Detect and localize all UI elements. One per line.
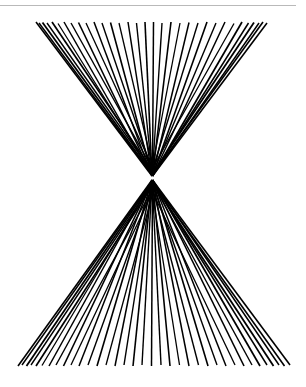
ray-upper-1: [39, 23, 152, 175]
ray-upper-0: [36, 22, 152, 176]
ray-lower-52: [153, 186, 162, 365]
figure-canvas: [0, 0, 306, 387]
ray-lower-59: [153, 180, 227, 366]
ray-lower-37: [36, 186, 152, 366]
ray-upper-32: [153, 23, 268, 176]
ray-upper-2: [43, 23, 153, 175]
ray-lower-34: [22, 181, 152, 365]
ray-upper-9: [86, 23, 152, 166]
ray-lower-33: [18, 180, 152, 366]
bowtie-ray-figure: [0, 0, 306, 387]
ray-lower-51: [152, 180, 153, 366]
ray-group: [18, 22, 290, 366]
ray-upper-26: [153, 24, 235, 169]
ray-lower-67: [153, 181, 285, 366]
ray-upper-8: [79, 23, 153, 176]
ray-upper-31: [153, 22, 264, 175]
ray-upper-25: [153, 22, 226, 176]
ray-upper-10: [94, 22, 152, 176]
